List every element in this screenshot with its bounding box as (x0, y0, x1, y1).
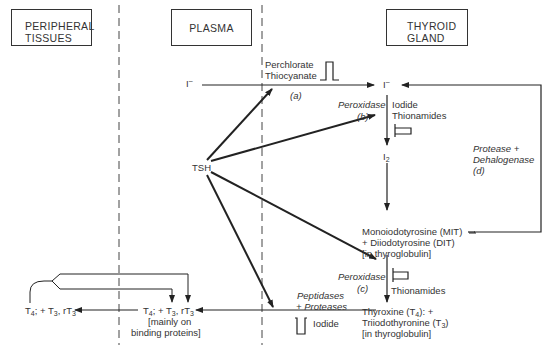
t4-line3: [in thyroglobulin] (362, 328, 448, 339)
iodine-i2: I2 (383, 151, 390, 162)
mit-line1: Monoiodotyrosine (MIT) (362, 226, 462, 237)
step-b-tag: (b) (357, 111, 369, 122)
peroxidase-b-label: Peroxidase (338, 99, 386, 110)
diagram-lines (0, 0, 547, 354)
plasma-note2: binding proteins] (131, 327, 201, 338)
compartment-peripheral-tissues: PERIPHERAL TISSUES (11, 9, 92, 46)
inhibitor-symbol-a (320, 62, 339, 80)
compartment-plasma: PLASMA (171, 9, 252, 46)
iodide-plasma: I– (186, 78, 193, 89)
pr-r: , rT (58, 305, 72, 316)
step-d-label: Protease + Dehalogenase (d) (473, 143, 534, 176)
peroxidase-c-label: Peroxidase (338, 271, 386, 282)
peptidases-label: Peptidases (297, 290, 347, 301)
proteases-label: + Proteases (296, 301, 347, 312)
inhibitor-symbol-release (295, 318, 307, 334)
plasma-note1: [mainly on (143, 316, 201, 327)
release-enzymes-label: Peptidases + Proteases (297, 290, 347, 312)
step-c-tag: (c) (357, 283, 368, 294)
t4-line2: Triiodothyronine (T3) (362, 317, 448, 328)
i2-subscript: 2 (386, 156, 390, 163)
iodide-thyroid: I– (383, 79, 390, 90)
plasma-hormones-line: T4; + T3, rT3 (143, 305, 201, 316)
thyroid-line2: GLAND (407, 32, 467, 44)
step-d-tag: (d) (473, 165, 534, 176)
thiocyanate-label: Thiocyanate (265, 70, 317, 81)
plasma-hormones: T4; + T3, rT3 [mainly on binding protein… (143, 305, 201, 338)
peripheral-hormones: T4; + T3, rT3 (25, 305, 76, 316)
peripheral-line2: TISSUES (25, 32, 91, 44)
t4-line1: Thyroxine (T4): + (362, 306, 448, 317)
pr-s3b: 3 (72, 310, 76, 317)
enzyme-a-inhibitors: Perchlorate Thiocyanate (265, 59, 317, 81)
step-a-tag: (a) (290, 90, 302, 101)
t4-line1-b: ): + (419, 306, 433, 317)
iodide-thyroid-charge: – (386, 78, 390, 85)
t4-line1-a: Thyroxine (T (362, 306, 415, 317)
peripheral-line1: PERIPHERAL (25, 20, 91, 32)
ph-mid: ; + T (153, 305, 172, 316)
t4-line2-b: ) (445, 317, 448, 328)
protease-label: Protease + (473, 143, 534, 154)
inhibitor-symbol-b (395, 124, 411, 137)
t4-line2-a: Triiodothyronine (T (362, 317, 441, 328)
thyroid-line1: THYROID (407, 20, 467, 32)
inhibitor-symbol-c (393, 268, 408, 282)
t4-t3-label: Thyroxine (T4): + Triiodothyronine (T3) … (362, 306, 448, 339)
iodide-inhibitor-b: Iodide (392, 99, 446, 110)
iodide-release-inhibitor: Iodide (313, 318, 339, 329)
iodide-plasma-charge: – (189, 77, 193, 84)
mit-line3: [in thyroglobulin] (362, 248, 462, 259)
perchlorate-label: Perchlorate (265, 59, 317, 70)
thionamides-inhibitor-c: Thionamides (391, 285, 445, 296)
pr-mid: ; + T (35, 305, 54, 316)
compartment-thyroid-gland: THYROID GLAND (386, 9, 468, 46)
plasma-label: PLASMA (189, 22, 233, 34)
ph-r: , rT (176, 305, 190, 316)
dehalogenase-label: Dehalogenase (473, 154, 534, 165)
tsh-label: TSH (192, 162, 211, 173)
mit-dit-label: Monoiodotyrosine (MIT) + Diiodotyrosine … (362, 226, 462, 259)
mit-line2: + Diiodotyrosine (DIT) (362, 237, 462, 248)
inhibitors-b: Iodide Thionamides (392, 99, 446, 121)
thionamides-inhibitor-b: Thionamides (392, 110, 446, 121)
